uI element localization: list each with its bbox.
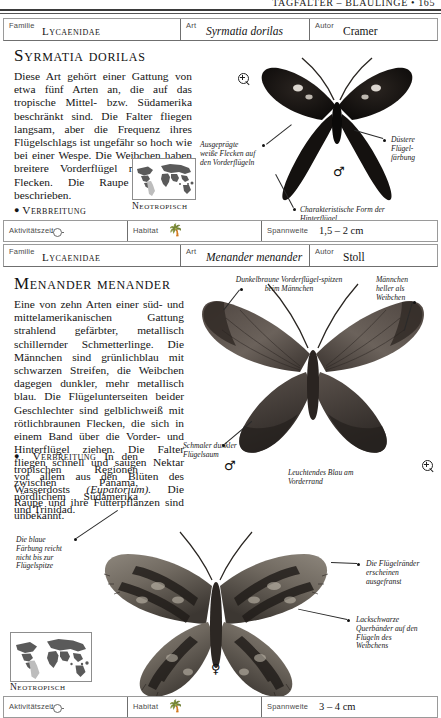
autor-label: Autor [315, 247, 334, 256]
annotation-dot [262, 144, 265, 147]
tree-icon: 🌴 [168, 700, 183, 713]
autor-cell: Autor Cramer [309, 19, 437, 40]
header-rule-thick [0, 9, 441, 11]
annotation-white-spots: Ausgeprägte weiße Flecken auf den Vorder… [200, 141, 256, 167]
sun-icon [53, 704, 62, 713]
female-symbol: ♀ [211, 661, 221, 676]
autor-cell: Autor Stoll [309, 245, 437, 266]
male-symbol: ♂ [333, 164, 345, 179]
spannweite-cell: Spannweite 3 – 4 cm [261, 697, 437, 717]
art-cell: Art Syrmatia dorilas [180, 19, 309, 40]
art-value: Menander menander [181, 251, 302, 266]
butterfly-photo-syrmatia [252, 48, 422, 208]
art-cell: Art Menander menander [180, 245, 309, 266]
art-value: Syrmatia dorilas [181, 25, 283, 40]
familie-label: Familie [9, 247, 35, 256]
annotation-dot [293, 208, 296, 211]
annotation-dark-colour: Düstere Flügel-färbung [391, 136, 431, 162]
tree-icon: 🌴 [168, 224, 183, 237]
habitat-label: Habitat [133, 226, 158, 235]
habitat-cell: Habitat 🌴 [127, 697, 261, 717]
entry-header-band: Familie Lycaenidae Art Syrmatia dorilas … [3, 18, 438, 41]
familie-cell: Familie Lycaenidae [4, 245, 180, 266]
annotation-bright-blue: Leuchtendes Blau am Vorderrand [288, 469, 366, 487]
verbreitung-label: Verbreitung [32, 450, 96, 462]
annotation-male-lighter: Männchen heller als Weibchen [376, 276, 422, 302]
aktivitaetszeit-cell: Aktivitätszeit [4, 221, 127, 241]
world-map-svg [133, 159, 195, 199]
spannweite-cell: Spannweite 1,5 – 2 cm [261, 221, 437, 241]
familie-label: Familie [9, 21, 35, 30]
map-region-label: Neotropisch [132, 201, 188, 211]
spannweite-label: Spannweite [267, 702, 308, 711]
annotation-frayed-edges: Die Flügelränder erscheinen ausgefranst [366, 560, 430, 586]
annotation-dot [347, 619, 350, 622]
bullet-glyph: ● [14, 205, 19, 215]
male-symbol: ♂ [224, 458, 236, 473]
autor-label: Autor [315, 21, 334, 30]
distribution-map [132, 158, 196, 200]
sun-icon [53, 228, 62, 237]
header-rule-thin [0, 13, 441, 14]
art-label: Art [186, 247, 196, 256]
annotation-blue-not-to-tip: Die blaue Färbung reicht nicht bis zur F… [16, 536, 70, 571]
entry-header-band: Familie Lycaenidae Art Menander menander… [3, 244, 438, 267]
map-region-label: Neotropisch [10, 682, 66, 692]
butterfly-photo-menander-female [86, 524, 346, 709]
species-entry-syrmatia-dorilas: Familie Lycaenidae Art Syrmatia dorilas … [0, 18, 441, 240]
distribution-map [10, 632, 92, 682]
verbreitung-label: Verbreitung [22, 204, 86, 216]
species-title: Syrmatia dorilas [14, 46, 146, 66]
annotation-dot [413, 301, 416, 304]
spannweite-value: 3 – 4 cm [319, 701, 355, 712]
species-title: Menander menander [14, 274, 171, 294]
aktivitaetszeit-cell: Aktivitätszeit [4, 697, 127, 717]
habitat-label: Habitat [133, 702, 158, 711]
running-head: TAGFALTER – BLÄULINGE • 165 [272, 0, 435, 8]
butterfly-svg [252, 48, 422, 208]
species-entry-menander-menander: Familie Lycaenidae Art Menander menander… [0, 244, 441, 717]
magnifier-plus-icon[interactable] [238, 73, 251, 86]
annotation-dot [240, 288, 243, 291]
annotation-black-cross-bands: Lackschwarze Querbänder auf den Flügeln … [356, 616, 418, 651]
butterfly-svg-female [86, 524, 346, 709]
familie-cell: Familie Lycaenidae [4, 19, 180, 40]
aktivitaetszeit-label: Aktivitätszeit [9, 702, 53, 711]
annotation-dot [357, 563, 360, 566]
spannweite-value: 1,5 – 2 cm [319, 225, 363, 236]
bullet-glyph: ● [14, 451, 25, 461]
annotation-dark-forewing-tips: Dunkelbraune Vorderflügel-spitzen beim M… [234, 276, 344, 294]
annotation-dot [383, 139, 386, 142]
entry-footer-band: Aktivitätszeit Habitat 🌴 Spannweite 3 – … [3, 696, 438, 718]
distribution-block: ● Verbreitung In den tropischen Regionen… [14, 450, 138, 516]
magnifier-plus-icon[interactable] [422, 460, 435, 473]
habitat-cell: Habitat 🌴 [127, 221, 261, 241]
world-map-svg [11, 633, 91, 681]
aktivitaetszeit-label: Aktivitätszeit [9, 226, 53, 235]
entry-footer-band: Aktivitätszeit Habitat 🌴 Spannweite 1,5 … [3, 220, 438, 242]
art-label: Art [186, 21, 196, 30]
spannweite-label: Spannweite [267, 226, 308, 235]
annotation-narrow-dark-margin: Schmaler dunkler Flügelsaum [183, 442, 249, 460]
